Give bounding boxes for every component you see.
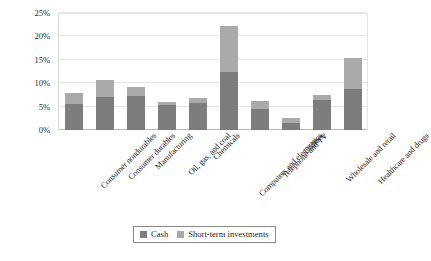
bar-group[interactable] — [220, 26, 238, 130]
bar-segment-short-term-investments[interactable] — [127, 87, 145, 95]
bar-segment-cash[interactable] — [65, 104, 83, 130]
bar-segment-short-term-investments[interactable] — [96, 80, 114, 97]
bar-segment-cash[interactable] — [313, 100, 331, 130]
y-tick-label: 15% — [35, 56, 50, 65]
chart-legend: CashShort-term investments — [133, 226, 276, 243]
legend-swatch-icon — [140, 231, 147, 238]
bar-segment-short-term-investments[interactable] — [158, 102, 176, 104]
y-tick-label: 20% — [35, 32, 50, 41]
x-axis: Consumer nondurablesConsumer durablesMan… — [0, 130, 376, 218]
bar-group[interactable] — [96, 80, 114, 130]
legend-item[interactable]: Cash — [140, 230, 168, 239]
bar-segment-cash[interactable] — [158, 105, 176, 130]
bar-group[interactable] — [158, 102, 176, 130]
bar-segment-short-term-investments[interactable] — [220, 26, 238, 72]
bar-group[interactable] — [251, 101, 269, 130]
y-axis: 0%5%10%15%20%25% — [0, 13, 54, 130]
bar-group[interactable] — [282, 118, 300, 130]
legend-label: Short-term investments — [188, 230, 268, 239]
bar-segment-cash[interactable] — [127, 96, 145, 130]
legend-label: Cash — [151, 230, 168, 239]
bar-group[interactable] — [313, 95, 331, 130]
bar-segment-cash[interactable] — [251, 109, 269, 130]
y-tick-label: 5% — [39, 102, 50, 111]
bars-layer — [59, 13, 368, 130]
bar-segment-cash[interactable] — [344, 89, 362, 130]
bar-group[interactable] — [189, 98, 207, 130]
bar-group[interactable] — [65, 93, 83, 130]
bar-segment-short-term-investments[interactable] — [344, 58, 362, 89]
bar-segment-short-term-investments[interactable] — [313, 95, 331, 100]
bar-group[interactable] — [344, 58, 362, 130]
bar-segment-short-term-investments[interactable] — [251, 101, 269, 110]
bar-segment-short-term-investments[interactable] — [65, 93, 83, 104]
bar-group[interactable] — [127, 87, 145, 130]
bar-segment-cash[interactable] — [96, 97, 114, 130]
bar-segment-cash[interactable] — [282, 123, 300, 130]
y-tick-label: 10% — [35, 79, 50, 88]
legend-swatch-icon — [177, 231, 184, 238]
bar-segment-short-term-investments[interactable] — [189, 98, 207, 103]
y-tick-label: 25% — [35, 9, 50, 18]
legend-item[interactable]: Short-term investments — [177, 230, 268, 239]
bar-segment-cash[interactable] — [220, 72, 238, 131]
bar-segment-short-term-investments[interactable] — [282, 118, 300, 122]
bar-segment-cash[interactable] — [189, 103, 207, 130]
